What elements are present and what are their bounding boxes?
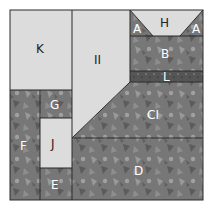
label-H: H — [160, 16, 169, 30]
label-A-right: A — [192, 22, 201, 36]
quilt-block-diagram: K II H A A B L CI G F J E D — [0, 0, 214, 210]
label-II: II — [94, 53, 101, 67]
label-A-left: A — [133, 22, 142, 36]
label-K: K — [36, 42, 45, 56]
label-L: L — [163, 70, 170, 84]
label-F: F — [20, 139, 27, 153]
label-CI: CI — [147, 108, 159, 122]
piece-J — [40, 118, 72, 168]
label-B: B — [161, 47, 169, 61]
label-D: D — [134, 164, 143, 178]
label-E: E — [51, 178, 59, 192]
label-J: J — [50, 137, 55, 151]
label-G: G — [50, 98, 59, 112]
